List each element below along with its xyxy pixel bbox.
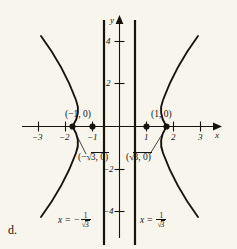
graph-canvas bbox=[0, 0, 237, 249]
point-vertex-left bbox=[69, 123, 75, 129]
point-label-neg1: (−1, 0) bbox=[65, 110, 91, 120]
point-focus-left bbox=[89, 123, 95, 129]
leader-line-vertex-right bbox=[150, 128, 166, 154]
x-tick-label--2: −2 bbox=[59, 133, 70, 142]
point-label-vertex-left: (−√3, 0) bbox=[78, 152, 109, 163]
fraction-right: 1√3 bbox=[156, 212, 166, 230]
x-axis bbox=[22, 123, 222, 131]
part-label: d. bbox=[8, 224, 17, 236]
leader-line-vertex-left bbox=[73, 128, 86, 154]
x-axis-label: x bbox=[215, 131, 219, 140]
asymptote-left-lhs: x = − bbox=[58, 215, 80, 225]
y-tick-label-4: 4 bbox=[106, 37, 111, 46]
asymptote-right-lhs: x = bbox=[140, 215, 155, 225]
point-vertex-right bbox=[163, 123, 169, 129]
fraction-left-den-value: 3 bbox=[85, 220, 90, 229]
asymptote-label-right: x = 1√3 bbox=[140, 212, 167, 230]
x-tick-label-1: 1 bbox=[144, 133, 149, 142]
fraction-right-numerator: 1 bbox=[156, 212, 166, 220]
fraction-left: 1√3 bbox=[81, 212, 91, 230]
vertex-left-prefix: (− bbox=[78, 152, 87, 162]
vertex-right-suffix: 3, 0) bbox=[133, 152, 151, 163]
fraction-right-den-value: 3 bbox=[161, 220, 166, 229]
x-tick-label--1: −1 bbox=[87, 133, 98, 142]
point-focus-right bbox=[143, 123, 149, 129]
hyperbola-figure: −3 −2 −1 1 2 3 4 2 −2 −4 x y (−1, 0) (1,… bbox=[0, 0, 237, 249]
fraction-right-denominator: √3 bbox=[156, 220, 166, 230]
vertex-left-suffix: 3, 0) bbox=[91, 152, 109, 163]
point-label-pos1: (1, 0) bbox=[151, 110, 172, 120]
y-tick-label-2: 2 bbox=[106, 79, 111, 88]
x-tick-label-3: 3 bbox=[198, 133, 203, 142]
y-tick-label--4: −4 bbox=[103, 207, 114, 216]
point-label-vertex-right: (√3, 0) bbox=[126, 152, 152, 163]
y-axis-label: y bbox=[110, 16, 114, 25]
fraction-left-numerator: 1 bbox=[81, 212, 91, 220]
fraction-left-denominator: √3 bbox=[81, 220, 91, 230]
asymptote-label-left: x = −1√3 bbox=[58, 212, 92, 230]
x-tick-label-2: 2 bbox=[171, 133, 176, 142]
x-tick-label--3: −3 bbox=[32, 133, 43, 142]
y-tick-label--2: −2 bbox=[103, 165, 114, 174]
